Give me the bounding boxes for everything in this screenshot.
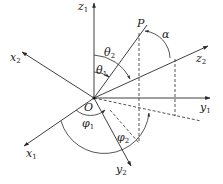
label-phi1: φ1	[82, 117, 94, 131]
label-x2: x2	[10, 51, 21, 65]
label-p: P	[136, 17, 145, 30]
label-alpha: α	[162, 28, 170, 41]
label-z1: z1	[77, 0, 88, 14]
origin-point	[92, 96, 95, 99]
label-origin: O	[84, 101, 93, 114]
label-theta1: θ1	[96, 64, 107, 78]
label-theta2: θ2	[104, 46, 115, 60]
axis-y2	[94, 98, 131, 166]
label-z2: z2	[195, 52, 206, 66]
coordinate-diagram: z1 x2 y1 x1 y2 z2 P O θ1 θ2 φ1 φ2 α	[0, 0, 223, 184]
label-x1: x1	[26, 147, 37, 161]
label-y1: y1	[199, 101, 211, 115]
label-y2: y2	[115, 163, 127, 177]
label-phi2: φ2	[117, 131, 129, 145]
projection-ground-line	[94, 98, 201, 121]
axis-x2	[22, 52, 94, 98]
